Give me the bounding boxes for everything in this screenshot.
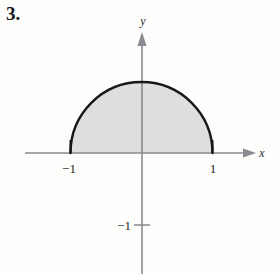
x-axis-label: x <box>258 146 265 160</box>
x-tick-label-minus-one: −1 <box>62 161 76 176</box>
x-axis-arrowhead <box>243 148 256 157</box>
x-tick-label-one: 1 <box>210 161 217 176</box>
figure-container: 3. x y −1 1 −1 <box>0 0 278 274</box>
y-axis-arrowhead <box>137 32 146 46</box>
y-axis-label: y <box>139 14 146 28</box>
y-tick-label-minus-one: −1 <box>117 218 131 233</box>
coordinate-plot: x y −1 1 −1 <box>0 0 278 274</box>
